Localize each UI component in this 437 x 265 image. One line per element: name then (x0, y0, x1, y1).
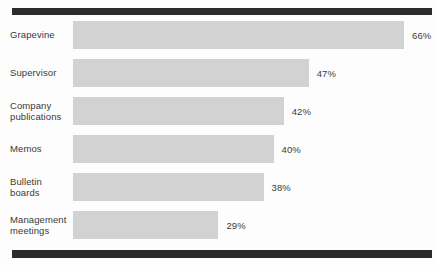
bar-track: 40% (73, 135, 437, 163)
category-label: Management meetings (10, 211, 70, 239)
top-rule (12, 8, 432, 15)
category-label: Bulletin boards (10, 173, 70, 201)
bar-value-label: 42% (284, 97, 311, 125)
bar-row: Memos40% (0, 135, 437, 163)
bar-value-label: 29% (218, 211, 245, 239)
plot-area: Grapevine66%Supervisor47%Company publica… (0, 21, 437, 247)
bar-track: 42% (73, 97, 437, 125)
bar-track: 47% (73, 59, 437, 87)
bar-fill (73, 21, 404, 49)
bottom-rule (12, 250, 432, 258)
bar-value-label: 66% (404, 21, 431, 49)
bar-row: Company publications42% (0, 97, 437, 125)
bar-row: Grapevine66% (0, 21, 437, 49)
bar-fill (73, 173, 264, 201)
bar-fill (73, 211, 218, 239)
bar-track: 38% (73, 173, 437, 201)
bar-fill (73, 135, 274, 163)
category-label: Supervisor (10, 59, 70, 87)
bar-row: Management meetings29% (0, 211, 437, 239)
category-label: Company publications (10, 97, 70, 125)
category-label: Grapevine (10, 21, 70, 49)
bar-track: 29% (73, 211, 437, 239)
horizontal-bar-chart: Grapevine66%Supervisor47%Company publica… (0, 0, 437, 265)
bar-value-label: 40% (274, 135, 301, 163)
bar-fill (73, 59, 309, 87)
bar-fill (73, 97, 284, 125)
bar-track: 66% (73, 21, 437, 49)
bar-row: Supervisor47% (0, 59, 437, 87)
bar-value-label: 38% (264, 173, 291, 201)
bar-row: Bulletin boards38% (0, 173, 437, 201)
bar-value-label: 47% (309, 59, 336, 87)
category-label: Memos (10, 135, 70, 163)
